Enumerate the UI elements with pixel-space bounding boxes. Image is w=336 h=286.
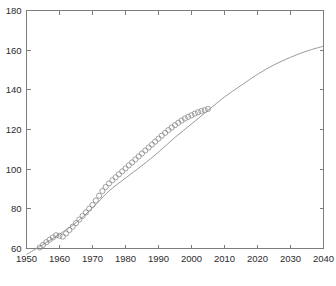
data-point-marker <box>196 110 201 115</box>
y-tick-label: 80 <box>11 203 22 214</box>
data-point-marker <box>106 181 111 186</box>
y-tick-label: 160 <box>6 45 22 56</box>
x-tick-label: 2000 <box>181 253 202 264</box>
data-point-marker <box>143 148 148 153</box>
data-point-marker <box>123 166 128 171</box>
data-point-marker <box>110 178 115 183</box>
data-point-marker <box>199 108 204 113</box>
data-point-marker <box>163 130 168 135</box>
x-tick-label: 1980 <box>115 253 136 264</box>
x-tick-label: 1960 <box>49 253 70 264</box>
data-point-marker <box>192 111 197 116</box>
observed-data-markers <box>37 106 210 250</box>
x-tick-label: 1970 <box>82 253 103 264</box>
data-point-marker <box>93 198 98 203</box>
data-point-marker <box>202 107 207 112</box>
x-tick-label: 2010 <box>214 253 235 264</box>
data-point-marker <box>139 151 144 156</box>
data-point-marker <box>60 234 65 239</box>
data-point-marker <box>149 142 154 147</box>
x-tick-label: 1990 <box>148 253 169 264</box>
data-point-marker <box>130 160 135 165</box>
y-axis-ticks <box>27 11 324 249</box>
chart-svg: 1950196019701980199020002010202020302040… <box>0 0 336 286</box>
data-point-marker <box>120 169 125 174</box>
y-tick-label: 60 <box>11 243 22 254</box>
data-point-marker <box>67 227 72 232</box>
data-point-marker <box>126 163 131 168</box>
data-point-marker <box>146 145 151 150</box>
y-axis-tick-labels: 6080100120140160180 <box>6 5 22 254</box>
y-tick-label: 140 <box>6 84 22 95</box>
fitted-projection-line <box>27 46 324 254</box>
data-point-marker <box>116 172 121 177</box>
data-point-marker <box>136 154 141 159</box>
figure-caption <box>0 276 336 286</box>
x-tick-label: 2020 <box>247 253 268 264</box>
x-tick-label: 2040 <box>313 253 334 264</box>
y-tick-label: 120 <box>6 124 22 135</box>
x-tick-label: 2030 <box>280 253 301 264</box>
data-point-marker <box>153 139 158 144</box>
y-tick-label: 100 <box>6 164 22 175</box>
y-tick-label: 180 <box>6 5 22 16</box>
data-point-marker <box>97 193 102 198</box>
fit-curve <box>27 46 324 254</box>
x-axis-ticks <box>27 11 324 249</box>
data-point-marker <box>133 157 138 162</box>
data-point-marker <box>189 113 194 118</box>
figure-container: 1950196019701980199020002010202020302040… <box>0 0 336 286</box>
data-point-marker <box>159 133 164 138</box>
plot-area: 1950196019701980199020002010202020302040… <box>0 0 336 286</box>
axes-box <box>27 11 324 249</box>
data-point-marker <box>64 231 69 236</box>
data-point-marker <box>156 136 161 141</box>
x-axis-tick-labels: 1950196019701980199020002010202020302040 <box>16 253 334 264</box>
data-point-marker <box>113 175 118 180</box>
